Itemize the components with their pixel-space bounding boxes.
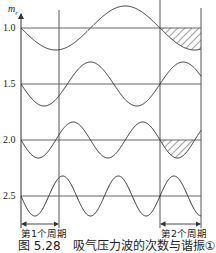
y-label-2-0: 2.0 <box>3 134 16 145</box>
y-label-1-0: 1.0 <box>3 22 16 33</box>
y-label-1-5: 1.5 <box>3 78 16 89</box>
y-label-2-5: 2.5 <box>3 190 16 201</box>
wave-diagram <box>0 0 210 236</box>
hatched-area-1-0 <box>160 28 201 50</box>
y-axis-title: mr <box>8 3 18 17</box>
figure-caption: 图 5.28 吸气压力波的次数与谐振① <box>18 236 215 253</box>
